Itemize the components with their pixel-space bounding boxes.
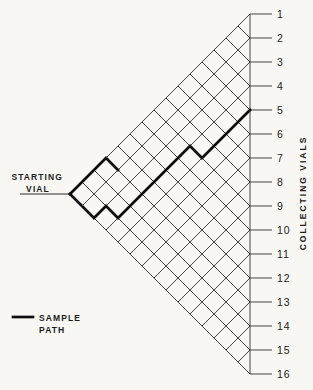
- vial-label: 4: [277, 80, 284, 92]
- grid-line-descending: [166, 98, 250, 182]
- vial-label: 15: [277, 344, 291, 356]
- vial-label: 14: [277, 320, 291, 332]
- vial-label: 7: [277, 152, 284, 164]
- starting-vial-label-line1: STARTING: [11, 172, 63, 182]
- grid-line-ascending: [166, 206, 250, 290]
- vial-label: 13: [277, 296, 291, 308]
- starting-vial-label-line2: VIAL: [26, 184, 50, 194]
- grid-line-descending: [70, 194, 250, 374]
- vial-label: 12: [277, 272, 291, 284]
- vial-label: 3: [277, 56, 284, 68]
- vial-label: 10: [277, 224, 291, 236]
- grid-line-ascending: [142, 158, 250, 266]
- sample-path-branch: [70, 158, 118, 194]
- collecting-vials-label: COLLECTING VIALS: [298, 136, 308, 251]
- diagram-canvas: 12345678910111213141516 STARTING VIAL CO…: [0, 0, 313, 390]
- countercurrent-distribution-diagram: 12345678910111213141516 STARTING VIAL CO…: [0, 0, 313, 390]
- legend-label-line2: PATH: [39, 325, 65, 335]
- grid-line-descending: [118, 146, 250, 278]
- grid-line-descending: [238, 26, 250, 38]
- vial-label: 2: [277, 32, 284, 44]
- grid-line-descending: [94, 170, 250, 326]
- vial-label: 6: [277, 128, 284, 140]
- vial-label: 5: [277, 104, 284, 116]
- vial-label: 11: [277, 248, 290, 260]
- grid-line-ascending: [94, 62, 250, 218]
- vial-label: 1: [277, 8, 284, 20]
- grid-line-ascending: [190, 254, 250, 314]
- lattice-grid-layer: 12345678910111213141516: [20, 8, 291, 380]
- vial-label: 9: [277, 200, 284, 212]
- grid-line-ascending: [238, 350, 250, 362]
- legend-label-line1: SAMPLE: [39, 313, 81, 323]
- vial-label: 16: [277, 368, 291, 380]
- vial-label: 8: [277, 176, 284, 188]
- grid-line-descending: [190, 74, 250, 134]
